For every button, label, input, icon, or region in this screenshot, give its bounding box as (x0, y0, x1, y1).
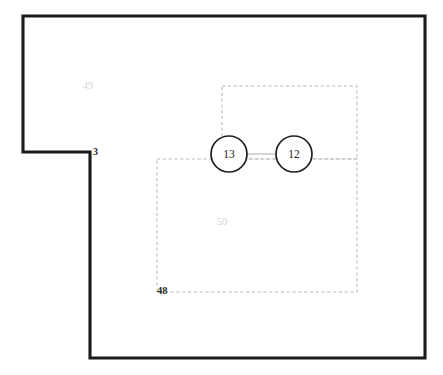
floor-plan-svg: 13 12 49 50 3 48 (0, 0, 443, 375)
node-label-12: 12 (288, 148, 300, 160)
node-label-13: 13 (223, 148, 235, 160)
floor-plan-canvas: 13 12 49 50 3 48 (0, 0, 443, 375)
corner-label-48: 48 (157, 285, 168, 296)
zone-label-49: 49 (83, 80, 94, 91)
building-outline (23, 16, 425, 358)
zone-lower-rect[interactable] (157, 159, 357, 292)
corner-label-3: 3 (93, 146, 98, 157)
zone-label-50: 50 (217, 216, 228, 227)
